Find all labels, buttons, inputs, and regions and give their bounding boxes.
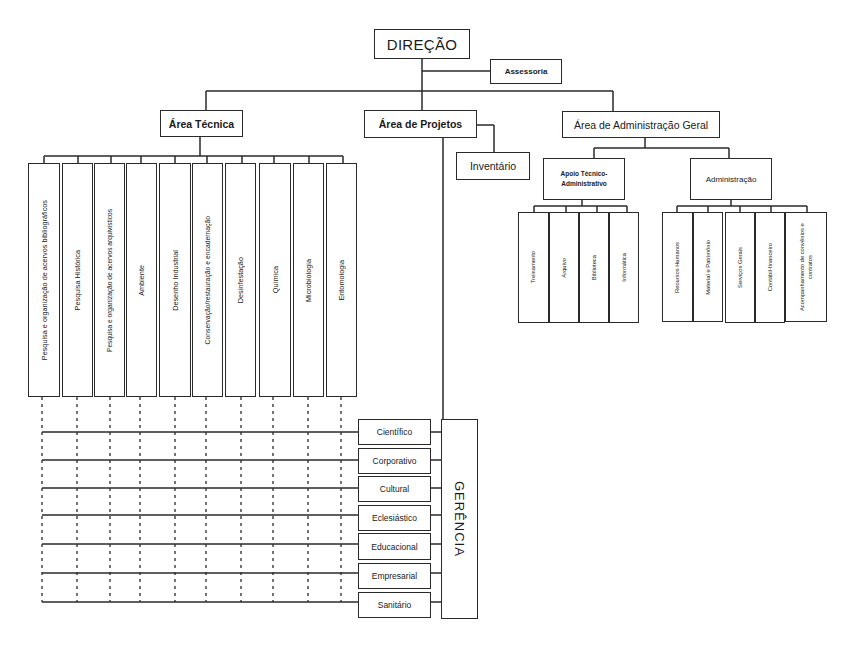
apoio-unit-label: Biblioteca: [590, 255, 598, 280]
tecnica-unit-label: Pesquisa Histórica: [73, 250, 82, 310]
apoio-unit: Biblioteca: [579, 212, 609, 323]
area-tecnica-label: Área Técnica: [169, 118, 234, 130]
gerencia-box: GERÊNCIA: [441, 419, 478, 619]
tecnica-unit-label: Desenho Industrial: [171, 250, 180, 311]
apoio-box: Apoio Técnico-Administrativo: [543, 158, 625, 200]
tecnica-unit-label: Conservação/restauração e encadernação: [204, 216, 211, 344]
sector-label: Eclesiástico: [372, 513, 417, 523]
sector-box: Empresarial: [358, 563, 431, 589]
apoio-unit: Arquivo: [549, 212, 579, 323]
direcao-box: DIREÇÃO: [374, 29, 470, 59]
sector-label: Empresarial: [372, 571, 417, 581]
apoio-label: Apoio Técnico-Administrativo: [550, 169, 618, 190]
tecnica-unit: Desenho Industrial: [159, 163, 191, 397]
tecnica-unit: Pesquisa e organização de acervos biblio…: [28, 163, 60, 397]
tecnica-unit: Microbiologia: [293, 163, 324, 397]
administracao-unit-label: Recursos Humanos: [673, 242, 681, 293]
apoio-unit: Treinamento: [518, 212, 549, 323]
administracao-unit: Contábil-financeiro: [755, 212, 785, 323]
sector-label: Sanitário: [378, 600, 412, 610]
administracao-unit-label: Material e Patrimônio: [704, 240, 712, 295]
administracao-label: Administração: [706, 175, 757, 184]
tecnica-unit: Pesquisa e organização de acervos arquiv…: [94, 163, 125, 397]
administracao-unit: Serviços Gerais: [725, 212, 755, 323]
sector-label: Científico: [377, 427, 412, 437]
administracao-unit: Recursos Humanos: [662, 212, 693, 322]
tecnica-unit: Desinfestação: [225, 163, 256, 397]
sector-label: Corporativo: [373, 456, 417, 466]
tecnica-unit-label: Pesquisa e organização de acervos arquiv…: [106, 209, 113, 352]
tecnica-unit: Entomologia: [326, 163, 357, 397]
sector-box: Corporativo: [358, 448, 431, 474]
area-projetos-label: Área de Projetos: [379, 118, 462, 130]
area-admin-geral-box: Área de Administração Geral: [562, 111, 720, 138]
inventario-box: Inventário: [456, 152, 530, 180]
tecnica-unit-label: Entomologia: [337, 260, 346, 301]
area-projetos-box: Área de Projetos: [364, 110, 477, 138]
administracao-unit-label: Acompanhamento de convênios e contratos: [798, 222, 814, 312]
sector-box: Cultural: [358, 476, 431, 502]
apoio-unit-label: Treinamento: [529, 251, 537, 283]
sector-label: Educacional: [371, 542, 417, 552]
assessoria-box: Assessoria: [490, 59, 562, 84]
administracao-unit: Acompanhamento de convênios e contratos: [785, 212, 827, 322]
sector-box: Eclesiástico: [358, 505, 431, 531]
sector-label: Cultural: [380, 484, 409, 494]
sector-box: Científico: [358, 419, 431, 445]
tecnica-unit-label: Desinfestação: [236, 257, 245, 303]
tecnica-unit: Conservação/restauração e encadernação: [192, 163, 223, 397]
area-admin-geral-label: Área de Administração Geral: [574, 119, 708, 131]
administracao-unit-label: Contábil-financeiro: [766, 243, 774, 291]
tecnica-unit-label: Pesquisa e organização de acervos biblio…: [40, 200, 49, 360]
tecnica-unit-label: Química: [271, 266, 280, 293]
administracao-box: Administração: [690, 158, 772, 200]
tecnica-unit: Ambiente: [126, 163, 157, 397]
direcao-label: DIREÇÃO: [387, 36, 457, 53]
administracao-unit: Material e Patrimônio: [693, 212, 723, 322]
tecnica-unit: Química: [259, 163, 291, 397]
apoio-unit: Informática: [609, 212, 639, 323]
sector-box: Sanitário: [358, 592, 431, 618]
apoio-unit-label: Arquivo: [560, 258, 568, 278]
assessoria-label: Assessoria: [505, 67, 548, 76]
tecnica-unit-label: Ambiente: [137, 265, 146, 296]
area-tecnica-box: Área Técnica: [160, 110, 243, 137]
apoio-unit-label: Informática: [620, 253, 628, 282]
inventario-label: Inventário: [470, 160, 516, 172]
gerencia-label: GERÊNCIA: [452, 481, 467, 557]
administracao-unit-label: Serviços Gerais: [736, 247, 744, 288]
tecnica-unit-label: Microbiologia: [304, 259, 313, 302]
sector-box: Educacional: [358, 533, 431, 560]
tecnica-unit: Pesquisa Histórica: [62, 163, 93, 397]
